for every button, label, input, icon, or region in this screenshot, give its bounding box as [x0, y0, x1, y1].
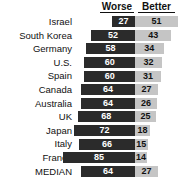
bar-value-worse: 68 — [78, 111, 135, 122]
bar-value-better: 27 — [135, 84, 158, 95]
chart-row: Israel2751 — [0, 15, 183, 29]
bar-value-better: 25 — [135, 111, 156, 122]
bar-better: 18 — [135, 125, 150, 136]
bar-value-worse: 85 — [63, 152, 135, 163]
chart-rows: Israel2751South Korea5243Germany5834U.S.… — [0, 15, 183, 178]
bar-track: 6426 — [0, 98, 183, 109]
bar-track: 5834 — [0, 43, 183, 54]
bar-worse: 52 — [91, 30, 135, 41]
bar-value-worse: 60 — [84, 57, 135, 68]
bar-value-worse: 64 — [81, 166, 135, 177]
bar-better: 27 — [135, 166, 158, 177]
bar-value-worse: 58 — [86, 43, 135, 54]
bar-worse: 85 — [63, 152, 135, 163]
bar-value-better: 14 — [135, 152, 147, 163]
bar-worse: 66 — [79, 139, 135, 150]
bar-track: 6031 — [0, 71, 183, 82]
bar-value-worse: 64 — [81, 98, 135, 109]
column-header-better: Better — [138, 1, 175, 13]
bar-value-better: 32 — [135, 57, 162, 68]
bar-value-worse: 52 — [91, 30, 135, 41]
bar-track: 2751 — [0, 16, 183, 27]
chart-row: France8514 — [0, 151, 183, 165]
bar-worse: 60 — [84, 57, 135, 68]
chart-row: MEDIAN6427 — [0, 165, 183, 179]
bar-track: 5243 — [0, 30, 183, 41]
column-header-worse: Worse — [100, 1, 134, 13]
bar-value-better: 18 — [135, 125, 150, 136]
bar-value-better: 15 — [135, 139, 148, 150]
bar-value-better: 34 — [135, 43, 164, 54]
bar-better: 26 — [135, 98, 157, 109]
bar-worse: 64 — [81, 166, 135, 177]
chart-row: UK6825 — [0, 110, 183, 124]
bar-track: 6032 — [0, 57, 183, 68]
bar-value-worse: 66 — [79, 139, 135, 150]
bar-better: 31 — [135, 71, 161, 82]
bar-track: 6615 — [0, 139, 183, 150]
bar-worse: 27 — [112, 16, 135, 27]
bar-value-worse: 72 — [74, 125, 135, 136]
chart-row: Spain6031 — [0, 69, 183, 83]
bar-better: 15 — [135, 139, 148, 150]
bar-better: 27 — [135, 84, 158, 95]
bar-worse: 60 — [84, 71, 135, 82]
bar-track: 8514 — [0, 152, 183, 163]
bar-worse: 64 — [81, 98, 135, 109]
bar-better: 51 — [135, 16, 178, 27]
bar-worse: 64 — [81, 84, 135, 95]
chart-row: Canada6427 — [0, 83, 183, 97]
bar-value-worse: 60 — [84, 71, 135, 82]
chart-row: Japan7218 — [0, 124, 183, 138]
bar-better: 14 — [135, 152, 147, 163]
diverging-bar-chart: Worse Better Israel2751South Korea5243Ge… — [0, 0, 183, 181]
bar-better: 43 — [135, 30, 171, 41]
bar-track: 6825 — [0, 111, 183, 122]
chart-row: Italy6615 — [0, 137, 183, 151]
bar-value-better: 51 — [135, 16, 178, 27]
bar-track: 7218 — [0, 125, 183, 136]
bar-value-better: 27 — [135, 166, 158, 177]
bar-track: 6427 — [0, 84, 183, 95]
chart-header: Worse Better — [0, 0, 183, 14]
bar-value-better: 43 — [135, 30, 171, 41]
bar-worse: 68 — [78, 111, 135, 122]
bar-value-worse: 27 — [112, 16, 135, 27]
chart-row: South Korea5243 — [0, 29, 183, 43]
bar-better: 32 — [135, 57, 162, 68]
chart-row: Germany5834 — [0, 42, 183, 56]
bar-worse: 72 — [74, 125, 135, 136]
bar-better: 25 — [135, 111, 156, 122]
bar-track: 6427 — [0, 166, 183, 177]
chart-row: Australia6426 — [0, 97, 183, 111]
bar-better: 34 — [135, 43, 164, 54]
bar-value-better: 26 — [135, 98, 157, 109]
bar-worse: 58 — [86, 43, 135, 54]
bar-value-better: 31 — [135, 71, 161, 82]
bar-value-worse: 64 — [81, 84, 135, 95]
chart-row: U.S.6032 — [0, 56, 183, 70]
